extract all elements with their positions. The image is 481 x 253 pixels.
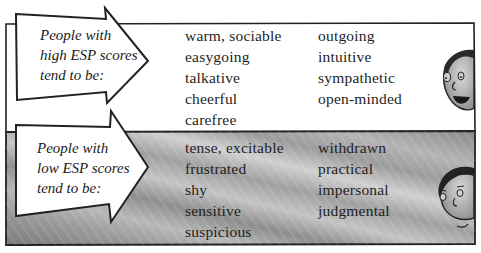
label-line: People with	[37, 138, 130, 158]
trait: talkative	[185, 67, 282, 88]
trait: tense, excitable	[185, 137, 284, 158]
trait: practical	[318, 158, 390, 179]
high-traits-col1: warm, sociable easygoing talkative cheer…	[185, 25, 282, 130]
trait: warm, sociable	[185, 25, 282, 46]
trait: withdrawn	[318, 137, 390, 158]
trait: impersonal	[318, 179, 390, 200]
esp-personality-diagram: People with high ESP scores tend to be: …	[0, 0, 481, 253]
trait: frustrated	[185, 158, 284, 179]
label-line: People with	[40, 25, 138, 45]
trait: cheerful	[185, 88, 282, 109]
label-line: low ESP scores	[37, 158, 130, 178]
label-line: tend to be:	[37, 178, 130, 198]
trait: suspicious	[185, 221, 284, 242]
trait: outgoing	[318, 25, 402, 46]
high-traits-col2: outgoing intuitive sympathetic open-mind…	[318, 25, 402, 109]
trait: open-minded	[318, 88, 402, 109]
high-esp-label: People with high ESP scores tend to be:	[40, 25, 138, 85]
trait: intuitive	[318, 46, 402, 67]
label-line: high ESP scores	[40, 45, 138, 65]
trait: judgmental	[318, 200, 390, 221]
label-line: tend to be:	[40, 65, 138, 85]
low-traits-col2: withdrawn practical impersonal judgmenta…	[318, 137, 390, 221]
trait: easygoing	[185, 46, 282, 67]
trait: sympathetic	[318, 67, 402, 88]
trait: shy	[185, 179, 284, 200]
low-traits-col1: tense, excitable frustrated shy sensitiv…	[185, 137, 284, 242]
trait: sensitive	[185, 200, 284, 221]
low-esp-label: People with low ESP scores tend to be:	[37, 138, 130, 198]
trait: carefree	[185, 109, 282, 130]
